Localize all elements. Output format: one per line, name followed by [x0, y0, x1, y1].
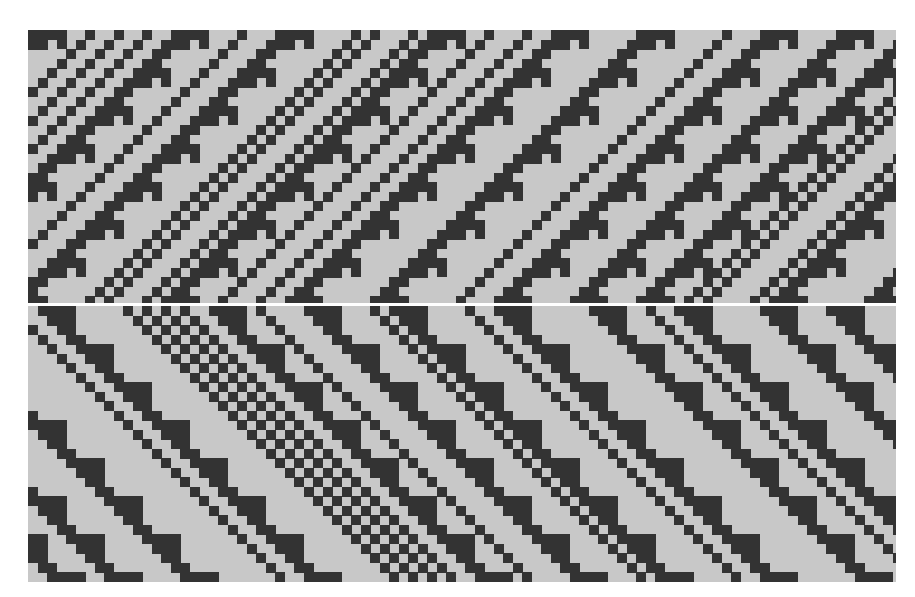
automaton-grid-top [28, 30, 896, 303]
automaton-grid-bottom [28, 306, 896, 582]
automaton-panel-bottom [28, 306, 896, 582]
automaton-panel-top [28, 30, 896, 303]
